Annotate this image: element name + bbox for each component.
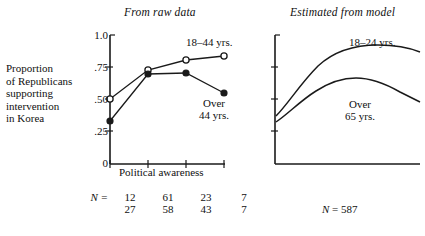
n-label: N = <box>74 191 111 203</box>
sample-size-grid: N = 12 61 23 7 27 58 43 7 <box>74 191 263 216</box>
annotation-18-24-yrs: 18–24 yrs. <box>349 36 395 48</box>
series-18-44-line <box>110 56 224 99</box>
annotation-over-65-yrs: Over 65 yrs. <box>345 98 375 123</box>
annotation-over-44-line1: Over <box>199 97 229 109</box>
table-row: N = 12 61 23 7 <box>74 191 263 203</box>
n-value-right: = 587 <box>332 203 357 215</box>
n-row2-cell: 27 <box>111 203 149 215</box>
left-panel-title: From raw data <box>124 6 196 18</box>
n-symbol-right: N <box>322 203 329 215</box>
data-point-filled <box>183 70 189 76</box>
annotation-over-65-line2: 65 yrs. <box>345 110 375 122</box>
y-axis-caption-line: in Korea <box>6 112 94 125</box>
annotation-over-44-yrs: Over 44 yrs. <box>199 97 229 122</box>
n-symbol: N = <box>90 191 108 203</box>
annotation-18-44-yrs: 18–44 yrs. <box>186 36 232 48</box>
table-row: 27 58 43 7 <box>74 203 263 215</box>
data-point-open <box>221 53 227 59</box>
n-row2-cell: 43 <box>187 203 225 215</box>
n-row1-cell: 61 <box>149 191 187 203</box>
n-row1-cell: 12 <box>111 191 149 203</box>
right-panel-sample-size: N = 587 <box>322 203 358 215</box>
x-axis-caption: Political awareness <box>119 166 204 178</box>
y-axis-caption-line: Proportion <box>6 62 94 75</box>
figure-container: From raw data Estimated from model 1.0 .… <box>0 0 425 236</box>
data-point-filled <box>221 90 227 96</box>
y-tick-label-0: 0 <box>74 157 108 169</box>
sample-size-table: N = 12 61 23 7 27 58 43 7 <box>74 191 263 216</box>
right-panel-title: Estimated from model <box>290 6 395 18</box>
n-row1-cell: 23 <box>187 191 225 203</box>
data-point-filled <box>107 118 113 124</box>
series-18-44-yrs <box>107 53 227 102</box>
y-axis-caption: Proportion of Republicans supporting int… <box>6 62 94 125</box>
n-row1-cell: 7 <box>225 191 263 203</box>
annotation-over-65-line1: Over <box>345 98 375 110</box>
y-axis-caption-line: supporting <box>6 87 94 100</box>
y-tick-label-0-25: .25 <box>74 125 108 137</box>
n-row2-cell: 58 <box>149 203 187 215</box>
n-label-spacer <box>74 203 111 215</box>
data-point-open <box>183 57 189 63</box>
n-row2-cell: 7 <box>225 203 263 215</box>
y-axis-caption-line: intervention <box>6 100 94 113</box>
y-tick-label-1-0: 1.0 <box>74 29 108 41</box>
data-point-filled <box>145 71 151 77</box>
annotation-over-44-line2: 44 yrs. <box>199 109 229 121</box>
y-axis-caption-line: of Republicans <box>6 75 94 88</box>
